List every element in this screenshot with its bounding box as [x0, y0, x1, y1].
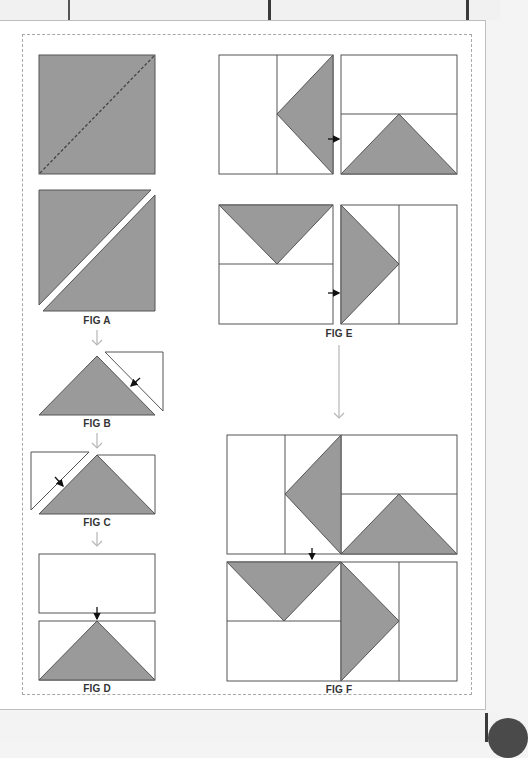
arrow-a-to-b: [92, 330, 102, 345]
fig-a-label: FIG A: [83, 315, 110, 326]
fig-d-diagram: [39, 554, 155, 680]
arrow-c-to-d: [92, 532, 102, 546]
fig-f-bottom-row: [227, 548, 457, 681]
arrow-b-to-c: [92, 433, 102, 448]
fig-c-label: FIG C: [83, 517, 111, 528]
fig-e-top-row: [219, 55, 457, 174]
fig-a-square: [39, 55, 155, 174]
fig-c-diagram: [31, 452, 155, 514]
arrow-e-to-f: [334, 345, 344, 418]
fig-a-cut-square: [39, 190, 155, 311]
fig-d-label: FIG D: [83, 683, 111, 694]
fig-b-diagram: [39, 352, 163, 415]
fig-f-top-row: [227, 435, 457, 554]
fig-e-label: FIG E: [325, 328, 352, 339]
fig-f-label: FIG F: [326, 684, 353, 695]
fig-e-bottom-row: [219, 205, 457, 324]
fig-b-label: FIG B: [83, 418, 111, 429]
